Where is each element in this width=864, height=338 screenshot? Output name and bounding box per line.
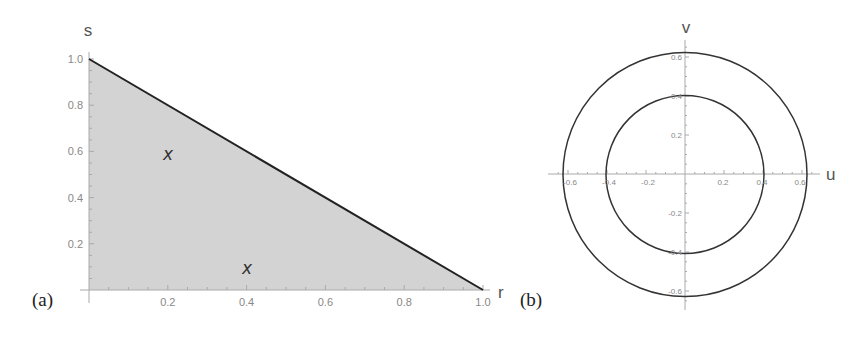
- v-tick-label: 0.4: [671, 92, 683, 101]
- u-tick-label: -0.6: [563, 178, 577, 187]
- point-label-x: x: [241, 258, 253, 278]
- x-tick-label: 1.0: [475, 296, 490, 308]
- y-tick-label: 0.8: [68, 99, 83, 111]
- x-axis-name: r: [498, 283, 504, 302]
- v-tick-label: -0.4: [668, 248, 682, 257]
- point-label-x: x: [162, 144, 174, 164]
- x-tick-label: 0.2: [160, 296, 175, 308]
- y-tick-label: 0.2: [68, 238, 83, 250]
- panel-label-b: (b): [520, 289, 542, 311]
- v-tick-label: -0.2: [668, 209, 682, 218]
- u-tick-label: -0.4: [602, 178, 616, 187]
- u-tick-label: 0.2: [717, 178, 729, 187]
- v-axis-name: v: [682, 18, 691, 37]
- figure: 0.2 0.4 0.6 0.8 1.0 0.2 0.4 0.6 0.8 1.0 …: [0, 0, 864, 338]
- v-tick-label: -0.6: [668, 287, 682, 296]
- x-tick-label: 0.6: [318, 296, 333, 308]
- u-tick-label: -0.2: [641, 178, 655, 187]
- u-tick-label: 0.4: [756, 178, 768, 187]
- x-tick-label: 0.4: [239, 296, 254, 308]
- u-axis-name: u: [826, 165, 835, 184]
- y-tick-label: 0.4: [68, 192, 83, 204]
- y-tick-label: 0.6: [68, 145, 83, 157]
- x-tick-label: 0.8: [397, 296, 412, 308]
- u-tick-label: 0.6: [794, 178, 806, 187]
- y-axis-name: s: [84, 21, 93, 40]
- panel-label-a: (a): [32, 289, 53, 311]
- v-tick-label: 0.2: [671, 131, 683, 140]
- panel-b-chart: -0.6 -0.4 -0.2 0.2 0.4 0.6 0.6 0.4 0.2 -…: [520, 18, 835, 311]
- panel-a-chart: 0.2 0.4 0.6 0.8 1.0 0.2 0.4 0.6 0.8 1.0 …: [32, 21, 504, 311]
- y-tick-label: 1.0: [68, 53, 83, 65]
- v-tick-label: 0.6: [671, 53, 683, 62]
